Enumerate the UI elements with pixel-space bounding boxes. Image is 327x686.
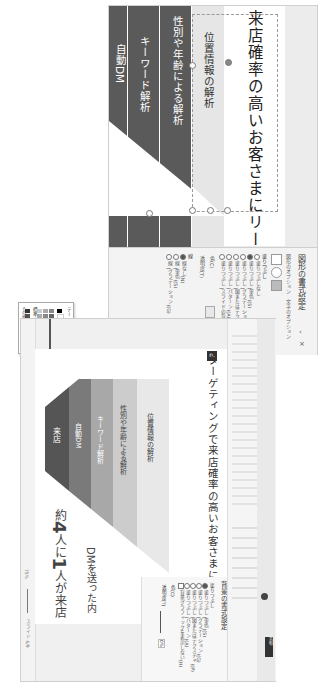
fill-line-tab-icon[interactable] [271,254,282,265]
section-fill-header[interactable]: 塗りつぶし [261,254,268,279]
visit-ratio-text: 約4人に1人が来店 [49,509,70,618]
fill-option-pattern[interactable]: 塗りつぶし (パターン)(A) [225,254,232,318]
slide-info: スライド 6/9 [24,619,30,648]
resize-handle[interactable] [146,210,153,217]
funnel-label-gender-age: 性別や年齢による解析 [170,16,185,126]
effects-tab-icon[interactable] [271,267,282,278]
line-option-none[interactable]: 線なし(N) [179,254,186,283]
funnel-label-gender-age: 性別や年齢による解析 [118,405,128,475]
transparency-value[interactable]: 0% [158,639,165,648]
color-picker-button[interactable] [205,306,215,318]
resize-handle[interactable] [224,207,231,214]
ribbon-tab-bar[interactable] [257,319,275,681]
funnel-label-auto-dm: 自動DM [73,423,83,448]
hide-bg-graphics-checkbox[interactable]: 背景グラフィックを表示しない(H) [177,583,184,667]
funnel-label-location: 位置情報の解析 [145,413,155,462]
bg-transparency-label: 透明度(T) [160,585,166,606]
upper-slide-canvas[interactable]: 自動DM キーワード解析 性別や年齢による解析 位置情報の解析 来店確率の高いお… [109,6,285,246]
resize-handle[interactable] [207,207,214,214]
bg-fill-picture[interactable]: 塗りつぶし (図またはテクスチャ)(P) [189,583,196,672]
bg-color-label: 色(C) [169,585,175,597]
ribbon-drawing-group[interactable] [232,519,258,599]
selection-box [192,14,278,212]
share-button[interactable]: 共有 [265,637,273,657]
zoom-level[interactable]: 75% [24,569,29,579]
funnel-label-keyword: キーワード解析 [137,36,152,113]
bg-fill-gradient[interactable]: 塗りつぶし (グラデーション)(G) [195,583,202,663]
fill-option-solid[interactable]: 塗りつぶし (単色)(S) [246,254,253,308]
resize-handle[interactable] [189,207,196,214]
collapse-pane-icon[interactable]: ‹ [299,328,302,336]
dm-sent-text: DMを送った内 [83,547,98,613]
lower-powerpoint-window: 75% スライド 6/9 n. ターゲティングで来店確率の高いお客さまにリーチで… [20,318,276,682]
status-bar: 75% スライド 6/9 [21,319,36,681]
ribbon-command-group[interactable] [232,329,258,509]
bg-section-fill[interactable]: 塗りつぶし [208,583,214,608]
upper-powerpoint-window: 自動DM キーワード解析 性別や年齢による解析 位置情報の解析 来店確率の高いお… [108,5,318,355]
format-pane-title: 図形の書式設定 [295,254,306,310]
format-pane-option-tabs[interactable]: 図形のオプション 文字のオプション [285,254,292,339]
line-option-gradient[interactable]: 線 (グラデーション)(G) [165,254,172,314]
zoom-slider[interactable] [27,589,28,613]
bg-fill-pattern[interactable]: 塗りつぶし (パターン)(A) [183,583,190,647]
funnel-label-auto-dm: 自動DM [113,44,128,83]
rotate-handle[interactable] [225,59,232,66]
funnel-label-visit: 来店 [50,427,61,443]
color-label: 色(C) [209,256,216,268]
close-pane-icon[interactable]: × [299,340,305,348]
section-line-header[interactable]: 線 [187,254,194,259]
line-option-solid[interactable]: 線 (単色)(S) [172,254,179,288]
resize-handle[interactable] [189,62,196,69]
size-properties-tab-icon[interactable] [271,280,282,291]
funnel-label-keyword: キーワード解析 [95,415,105,464]
transparency-slider[interactable] [160,611,161,633]
fill-option-none[interactable]: 塗りつぶしなし [253,254,260,296]
format-background-pane: 背景の書式設定 塗りつぶし 塗りつぶし (単色)(S) 塗りつぶし (グラデーシ… [141,577,228,681]
transparency-label: 透明度(T) [199,256,206,278]
bg-fill-solid[interactable]: 塗りつぶし (単色)(S) [201,583,208,637]
user-avatar[interactable] [261,593,268,600]
